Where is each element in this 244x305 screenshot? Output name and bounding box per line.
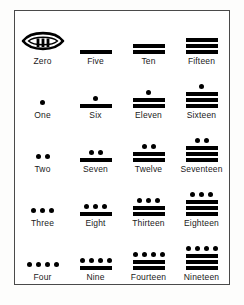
dot-unit <box>151 252 156 257</box>
numeral-glyph <box>133 251 165 270</box>
dot-unit <box>45 154 50 159</box>
numeral-glyph <box>186 137 218 162</box>
dot-group <box>186 245 218 252</box>
dot-unit <box>146 90 151 95</box>
dot-unit <box>49 208 54 213</box>
numeral-cell: One <box>16 67 69 121</box>
numeral-cell: Five <box>69 13 122 67</box>
bar-unit <box>133 104 165 108</box>
dot-unit <box>93 204 98 209</box>
dot-unit <box>31 208 36 213</box>
dot-unit <box>36 262 41 267</box>
dot-unit <box>54 262 59 267</box>
dot-group <box>93 95 98 102</box>
bar-group <box>80 158 112 162</box>
numeral-label: Fourteen <box>131 273 166 282</box>
numeral-label: Sixteen <box>187 111 217 120</box>
numeral-cell: Nineteen <box>175 229 228 283</box>
numeral-cell: Four <box>16 229 69 283</box>
numeral-cell: Eighteen <box>175 175 228 229</box>
numeral-cell: Eleven <box>122 67 175 121</box>
dot-unit <box>160 252 165 257</box>
numerals-grid: ZeroFiveTenFifteenOneSixElevenSixteenTwo… <box>15 11 229 284</box>
dot-unit <box>195 138 200 143</box>
dot-unit <box>40 208 45 213</box>
numeral-glyph <box>80 95 112 108</box>
bar-unit <box>186 44 218 48</box>
dot-group <box>84 203 107 210</box>
numeral-label: Five <box>87 57 104 66</box>
bar-unit <box>133 206 165 210</box>
bar-unit <box>133 98 165 102</box>
dot-unit <box>102 204 107 209</box>
dot-group <box>31 207 54 214</box>
numeral-cell: Seventeen <box>175 121 228 175</box>
bar-unit <box>133 212 165 216</box>
dot-unit <box>107 258 112 263</box>
bar-group <box>186 146 218 162</box>
numeral-cell: Two <box>16 121 69 175</box>
mayan-numerals-chart: ZeroFiveTenFifteenOneSixElevenSixteenTwo… <box>14 10 230 285</box>
numeral-glyph <box>186 245 218 270</box>
dot-unit <box>45 262 50 267</box>
bar-unit <box>133 44 165 48</box>
bar-unit <box>80 158 112 162</box>
shell-zero-icon <box>21 29 65 53</box>
numeral-glyph <box>80 149 112 162</box>
numeral-cell: Three <box>16 175 69 229</box>
dot-unit <box>80 258 85 263</box>
dot-unit <box>36 154 41 159</box>
bar-group <box>186 92 218 108</box>
dot-unit <box>195 246 200 251</box>
dot-group <box>195 137 209 144</box>
bar-unit <box>186 104 218 108</box>
numeral-cell: Fourteen <box>122 229 175 283</box>
dot-unit <box>186 246 191 251</box>
dot-group <box>36 153 50 160</box>
bar-unit <box>186 200 218 204</box>
bar-unit <box>80 104 112 108</box>
bar-group <box>80 104 112 108</box>
bar-unit <box>186 266 218 270</box>
dot-unit <box>89 258 94 263</box>
numeral-glyph <box>133 37 165 54</box>
numeral-cell: Fifteen <box>175 13 228 67</box>
numeral-glyph <box>31 207 54 216</box>
numeral-cell: Nine <box>69 229 122 283</box>
bar-group <box>186 38 218 54</box>
dot-unit <box>89 150 94 155</box>
dot-unit <box>133 252 138 257</box>
numeral-label: Thirteen <box>132 219 165 228</box>
dot-group <box>190 191 213 198</box>
bar-group <box>186 200 218 216</box>
dot-group <box>146 89 151 96</box>
bar-unit <box>186 212 218 216</box>
bar-group <box>133 152 165 162</box>
numeral-glyph <box>36 153 50 162</box>
bar-group <box>133 206 165 216</box>
bar-unit <box>133 158 165 162</box>
numeral-glyph <box>133 143 165 162</box>
numeral-label: Eighteen <box>184 219 219 228</box>
dot-unit <box>204 138 209 143</box>
bar-unit <box>133 266 165 270</box>
bar-unit <box>186 98 218 102</box>
dot-unit <box>137 198 142 203</box>
numeral-glyph <box>21 29 65 54</box>
dot-group <box>142 143 156 150</box>
numeral-label: Nineteen <box>184 273 219 282</box>
bar-unit <box>186 50 218 54</box>
dot-unit <box>84 204 89 209</box>
numeral-cell: Twelve <box>122 121 175 175</box>
numeral-cell: Thirteen <box>122 175 175 229</box>
numeral-label: Two <box>34 165 50 174</box>
bar-group <box>133 98 165 108</box>
numeral-glyph <box>40 99 45 108</box>
numeral-glyph <box>80 257 112 270</box>
dot-group <box>199 83 204 90</box>
bar-unit <box>186 260 218 264</box>
numeral-label: Seven <box>83 165 108 174</box>
dot-unit <box>199 84 204 89</box>
numeral-label: Eight <box>85 219 105 228</box>
numeral-cell: Seven <box>69 121 122 175</box>
